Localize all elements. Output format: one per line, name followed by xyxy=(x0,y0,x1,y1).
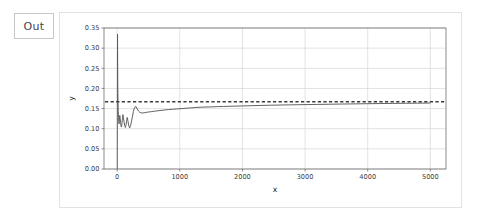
svg-text:0.10: 0.10 xyxy=(85,125,100,133)
chart-svg: 0.000.050.100.150.200.250.300.35 0100020… xyxy=(60,13,463,209)
svg-text:0.35: 0.35 xyxy=(85,24,100,32)
svg-text:1000: 1000 xyxy=(171,173,188,181)
svg-text:0.30: 0.30 xyxy=(85,44,100,52)
output-prompt-label: Out xyxy=(14,13,54,39)
svg-text:0.00: 0.00 xyxy=(85,165,100,173)
svg-text:5000: 5000 xyxy=(422,173,439,181)
svg-text:3000: 3000 xyxy=(297,173,314,181)
x-axis-title: x xyxy=(273,185,278,194)
notebook-output-cell: Out 0.000.050.100.150.200.250.300.35 010… xyxy=(0,0,480,220)
svg-text:0.05: 0.05 xyxy=(85,145,100,153)
svg-text:0.25: 0.25 xyxy=(85,65,100,73)
x-tick-labels: 010002000300040005000 xyxy=(115,173,439,181)
y-tick-labels: 0.000.050.100.150.200.250.300.35 xyxy=(85,24,100,173)
line-chart: 0.000.050.100.150.200.250.300.35 0100020… xyxy=(60,13,463,209)
plot-frame xyxy=(104,28,446,169)
y-axis-title: y xyxy=(67,96,76,101)
svg-text:2000: 2000 xyxy=(234,173,251,181)
svg-text:0.15: 0.15 xyxy=(85,105,100,113)
svg-text:4000: 4000 xyxy=(359,173,376,181)
gridlines xyxy=(104,28,446,169)
svg-text:0.20: 0.20 xyxy=(85,85,100,93)
svg-text:0: 0 xyxy=(115,173,119,181)
figure-container: 0.000.050.100.150.200.250.300.35 0100020… xyxy=(59,12,462,208)
axis-ticks xyxy=(102,28,431,172)
